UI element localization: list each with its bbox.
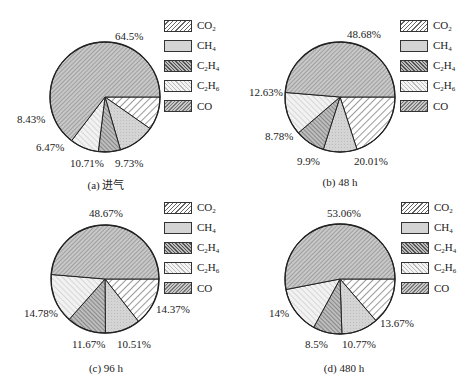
legend-label-co2: CO2: [434, 201, 453, 215]
pie-panel-c: 48.67% 14.78% 11.67% 10.51% 14.37% (c) 9…: [0, 193, 233, 386]
legend-label-c2h6: C2H6: [197, 261, 219, 275]
legend-swatch-c2h4: [164, 60, 192, 72]
legend-label-ch4: CH4: [433, 39, 452, 53]
legend-swatch-co2: [164, 202, 192, 214]
legend-item-c2h6: C2H6: [164, 79, 219, 93]
legend-item-c2h4: C2H4: [164, 241, 219, 255]
legend-item-co: CO: [164, 99, 212, 113]
label-co: 64.5%: [115, 30, 143, 42]
legend-item-co: CO: [164, 281, 212, 295]
legend-swatch-co: [164, 282, 192, 294]
label-c2h4: 8.78%: [265, 130, 293, 142]
legend-item-ch4: CH4: [164, 221, 216, 235]
legend-label-co: CO: [197, 282, 212, 294]
legend-label-ch4: CH4: [197, 39, 216, 53]
caption-b: (b) 48 h: [280, 176, 400, 188]
pie-panel-d: 53.06% 14% 8.5% 10.77% 13.67% (d) 480 h …: [233, 193, 466, 386]
legend-label-co: CO: [433, 100, 448, 112]
label-ch4: 9.9%: [297, 155, 320, 167]
legend-item-c2h4: C2H4: [164, 59, 219, 73]
legend-label-co2: CO2: [197, 19, 216, 33]
legend-label-c2h6: C2H6: [434, 261, 456, 275]
legend-label-c2h4: C2H4: [434, 241, 456, 255]
legend-item-ch4: CH4: [164, 39, 216, 53]
legend-item-co2: CO2: [400, 19, 452, 33]
legend-swatch-c2h4: [164, 242, 192, 254]
legend-swatch-co2: [164, 20, 192, 32]
legend-item-co2: CO2: [164, 201, 216, 215]
label-co: 48.67%: [89, 207, 123, 219]
legend-swatch-c2h6: [164, 262, 192, 274]
legend-label-c2h4: C2H4: [197, 241, 219, 255]
legend-item-c2h4: C2H4: [400, 59, 455, 73]
legend-swatch-c2h6: [401, 262, 429, 274]
legend-swatch-c2h6: [400, 80, 428, 92]
label-c2h4: 11.67%: [72, 338, 106, 350]
legend-item-c2h4: C2H4: [401, 241, 456, 255]
legend-item-co2: CO2: [401, 201, 453, 215]
label-ch4: 10.77%: [342, 338, 376, 350]
legend-item-ch4: CH4: [401, 221, 453, 235]
legend-swatch-ch4: [400, 40, 428, 52]
legend-swatch-co2: [401, 202, 429, 214]
legend-label-c2h4: C2H4: [433, 59, 455, 73]
label-c2h6: 12.63%: [249, 86, 283, 98]
legend-item-co2: CO2: [164, 19, 216, 33]
label-ch4: 10.71%: [70, 157, 104, 169]
label-ch4: 10.51%: [117, 338, 151, 350]
legend-label-c2h6: C2H6: [433, 79, 455, 93]
legend-label-co: CO: [434, 282, 449, 294]
legend-item-c2h6: C2H6: [164, 261, 219, 275]
label-c2h6: 14%: [269, 307, 289, 319]
label-co2: 13.67%: [380, 317, 414, 329]
legend-label-co: CO: [197, 100, 212, 112]
legend-swatch-co2: [400, 20, 428, 32]
label-c2h6: 14.78%: [24, 307, 58, 319]
legend-swatch-co: [400, 100, 428, 112]
legend-label-c2h6: C2H6: [197, 79, 219, 93]
legend-item-co: CO: [400, 99, 448, 113]
caption-a: (a) 进气: [46, 176, 166, 192]
legend-item-ch4: CH4: [400, 39, 452, 53]
legend-swatch-co: [401, 282, 429, 294]
legend-label-c2h4: C2H4: [197, 59, 219, 73]
legend-swatch-ch4: [164, 222, 192, 234]
label-c2h4: 6.47%: [36, 141, 64, 153]
legend-item-c2h6: C2H6: [401, 261, 456, 275]
label-co2: 9.73%: [115, 157, 143, 169]
caption-d: (d) 480 h: [284, 362, 404, 374]
caption-c: (c) 96 h: [46, 362, 166, 374]
legend-swatch-c2h4: [400, 60, 428, 72]
label-co2: 14.37%: [156, 303, 190, 315]
legend-item-co: CO: [401, 281, 449, 295]
pie-panel-a: 64.5% 8.43% 6.47% 10.71% 9.73% (a) 进气 CO…: [0, 0, 233, 193]
label-co2: 20.01%: [354, 155, 388, 167]
legend-swatch-c2h6: [164, 80, 192, 92]
legend-swatch-co: [164, 100, 192, 112]
legend-label-co2: CO2: [197, 201, 216, 215]
pie-slice-co: [285, 42, 395, 97]
legend-label-ch4: CH4: [197, 221, 216, 235]
legend-swatch-ch4: [401, 222, 429, 234]
legend-label-co2: CO2: [433, 19, 452, 33]
label-c2h6: 8.43%: [17, 113, 45, 125]
legend-swatch-ch4: [164, 40, 192, 52]
label-c2h4: 8.5%: [305, 338, 328, 350]
legend-label-ch4: CH4: [434, 221, 453, 235]
legend-item-c2h6: C2H6: [400, 79, 455, 93]
label-co: 48.68%: [347, 28, 381, 40]
pie-slice-co: [51, 225, 159, 279]
legend-swatch-c2h4: [401, 242, 429, 254]
pie-panel-b: 48.68% 12.63% 8.78% 9.9% 20.01% (b) 48 h…: [233, 0, 466, 193]
label-co: 53.06%: [327, 207, 361, 219]
